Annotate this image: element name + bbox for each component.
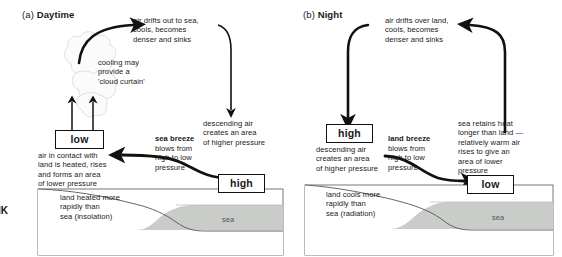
sea-breeze-lead: sea breeze [155,134,194,143]
note-low-description-a: air in contact with land is heated, rise… [38,151,107,189]
note-land-heated: land heated more rapidly than sea (insol… [60,193,120,221]
note-sea-retains-heat: sea retains heat longer than land — rela… [458,119,523,175]
arrow-descending-air-b [348,25,368,117]
land-breeze-body: blows from high to low pressure [388,144,425,172]
note-land-breeze: land breezeblows from high to low pressu… [388,125,430,172]
sea-label-a: sea [222,215,234,224]
note-descending-air-b: descending air creates an area of higher… [316,145,378,173]
land-breeze-lead: land breeze [388,134,430,143]
panel-a-name: Daytime [37,9,75,20]
panel-a-title: (a) Daytime [22,9,74,20]
panel-b-title: (b) Night [303,9,342,20]
panel-b-label: (b) [303,9,315,20]
pressure-box-low-b[interactable]: low [467,175,514,194]
diagram-canvas: IK (a) Daytime air drifts out to sea, co… [0,0,562,257]
note-land-cools: land cools more rapidly than sea (radiat… [326,190,380,218]
panel-b-name: Night [318,9,343,20]
note-descending-air-a: descending air creates an area of higher… [203,119,265,147]
note-drift-out-to-sea: air drifts out to sea, cools, becomes de… [133,16,199,44]
pressure-box-low-a[interactable]: low [55,130,104,149]
sea-breeze-body: blows from high to low pressure [155,144,192,172]
pressure-box-high-b[interactable]: high [326,124,373,143]
rising-air-arrows [72,102,93,130]
pressure-box-high-a[interactable]: high [218,174,265,193]
arrow-drift-over-land [470,25,505,132]
side-mark: IK [0,205,8,216]
note-cooling-cloud-curtain: cooling may provide a 'cloud curtain' [98,58,145,86]
note-sea-breeze: sea breezeblows from high to low pressur… [155,125,194,172]
sea-label-b: sea [492,213,504,222]
panel-a-label: (a) [22,9,34,20]
arrow-descending-air-a [218,25,231,110]
note-drift-over-land: air drifts over land, cools, becomes den… [385,16,449,44]
